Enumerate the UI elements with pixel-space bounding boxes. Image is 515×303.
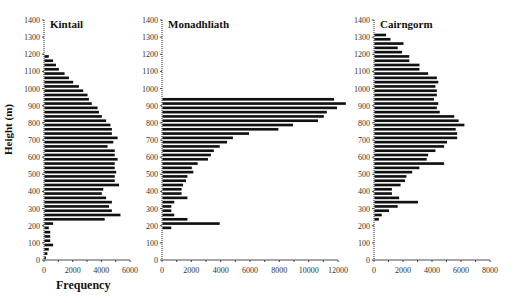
chart-cairngorm: 0100200300400500600700800900100011001200… xyxy=(354,16,498,275)
bar xyxy=(375,85,436,88)
x-tick-label: 6000 xyxy=(122,266,138,275)
y-tick-label: 100 xyxy=(358,239,370,248)
bar xyxy=(163,175,188,178)
bar xyxy=(375,132,458,135)
bar xyxy=(163,218,188,221)
bar xyxy=(375,94,437,97)
y-tick-label: 900 xyxy=(28,102,40,111)
bar xyxy=(375,209,390,212)
y-tick-label: 200 xyxy=(358,222,370,231)
bar xyxy=(375,141,448,144)
bar xyxy=(375,175,407,178)
bar xyxy=(375,34,387,37)
bar xyxy=(45,72,65,75)
bar xyxy=(375,38,391,41)
bar xyxy=(375,68,420,71)
chart-kintail: 0100200300400500600700800900100011001200… xyxy=(24,16,138,275)
bar xyxy=(163,128,279,131)
bar xyxy=(45,55,49,58)
chart-title: Cairngorm xyxy=(380,18,433,30)
bar xyxy=(45,244,54,247)
bar xyxy=(375,115,455,118)
bar xyxy=(163,192,182,195)
bar xyxy=(375,51,403,54)
bar xyxy=(163,205,172,208)
y-axis-label: Height (m) xyxy=(2,104,14,155)
y-tick-label: 400 xyxy=(28,187,40,196)
bar xyxy=(163,124,294,127)
bar xyxy=(45,107,98,110)
bar xyxy=(375,42,404,45)
bar xyxy=(375,81,439,84)
bar xyxy=(163,132,250,135)
bar xyxy=(45,188,104,191)
x-tick-label: 6000 xyxy=(242,266,258,275)
bar xyxy=(45,231,51,234)
bar xyxy=(375,162,445,165)
x-tick-label: 10000 xyxy=(299,266,319,275)
bar xyxy=(45,257,46,260)
bar xyxy=(45,205,110,208)
bar xyxy=(375,55,410,58)
bar xyxy=(163,171,194,174)
bar xyxy=(45,98,89,101)
x-tick-label: 4000 xyxy=(424,266,440,275)
y-tick-label: 900 xyxy=(358,102,370,111)
bar xyxy=(375,77,437,80)
y-tick-label: 100 xyxy=(146,239,158,248)
y-tick-label: 1200 xyxy=(142,50,158,59)
y-tick-label: 800 xyxy=(358,119,370,128)
bar xyxy=(45,179,115,182)
bar xyxy=(163,111,327,114)
y-tick-label: 1100 xyxy=(354,67,370,76)
y-tick-label: 0 xyxy=(36,256,40,265)
bar xyxy=(45,227,49,230)
bar xyxy=(45,141,114,144)
bar xyxy=(163,188,182,191)
bar xyxy=(163,141,228,144)
y-tick-label: 1200 xyxy=(24,50,40,59)
y-tick-label: 500 xyxy=(358,170,370,179)
y-tick-label: 300 xyxy=(146,205,158,214)
bar xyxy=(45,89,84,92)
bar xyxy=(163,222,220,225)
y-tick-label: 600 xyxy=(146,153,158,162)
bar xyxy=(45,218,105,221)
bar xyxy=(45,222,54,225)
bar xyxy=(45,171,117,174)
y-tick-label: 200 xyxy=(28,222,40,231)
bar xyxy=(45,102,92,105)
bar xyxy=(45,192,102,195)
bar xyxy=(375,119,459,122)
y-tick-label: 800 xyxy=(28,119,40,128)
bar xyxy=(45,201,112,204)
y-tick-label: 400 xyxy=(358,187,370,196)
y-tick-label: 1400 xyxy=(142,16,158,25)
bar xyxy=(45,162,115,165)
figure: Height (m) Frequency 0100200300400500600… xyxy=(0,0,515,303)
y-tick-label: 700 xyxy=(28,136,40,145)
bar xyxy=(163,201,175,204)
x-tick-label: 0 xyxy=(160,266,164,275)
bar xyxy=(45,132,112,135)
y-tick-label: 1300 xyxy=(24,33,40,42)
chart-monadhliath: 0100200300400500600700800900100011001200… xyxy=(142,16,348,275)
bar xyxy=(163,145,220,148)
bar xyxy=(375,154,429,157)
y-tick-label: 1200 xyxy=(354,50,370,59)
y-tick-label: 100 xyxy=(28,239,40,248)
bar xyxy=(163,137,233,140)
bar xyxy=(163,214,175,217)
bar xyxy=(163,107,338,110)
bar xyxy=(45,85,79,88)
y-tick-label: 0 xyxy=(366,256,370,265)
bar xyxy=(375,124,465,127)
y-tick-label: 500 xyxy=(146,170,158,179)
bar xyxy=(375,111,440,114)
bar xyxy=(45,252,48,255)
y-tick-label: 700 xyxy=(146,136,158,145)
bar xyxy=(375,179,405,182)
bar xyxy=(375,149,436,152)
bar xyxy=(375,214,382,217)
y-tick-label: 400 xyxy=(146,187,158,196)
